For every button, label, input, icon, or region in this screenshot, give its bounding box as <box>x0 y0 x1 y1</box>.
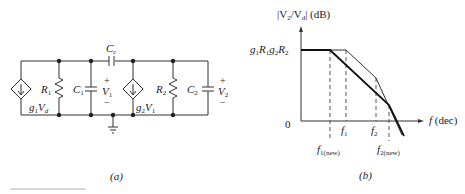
bode-plot <box>299 26 424 141</box>
C2-label: C2 <box>187 83 198 97</box>
x-axis-arrow-icon <box>418 119 424 123</box>
V1-minus: − <box>104 97 110 108</box>
dependent-current-source-icon <box>123 79 143 99</box>
x-axis-label: f (dec) <box>429 114 458 127</box>
dependent-current-source-icon <box>11 79 31 99</box>
R1-label: R1 <box>40 83 52 97</box>
R2-label: R2 <box>155 83 167 97</box>
original-response-line <box>301 50 402 135</box>
f2-tick-label: f2 <box>371 124 378 138</box>
V2-minus: − <box>220 97 226 108</box>
f1new-tick-label: f1(new) <box>317 143 341 157</box>
source2-label: g2V1 <box>136 101 156 115</box>
source1-label: g1Vd <box>29 101 49 115</box>
caption-a: (a) <box>110 170 123 183</box>
origin-label: 0 <box>285 118 291 130</box>
caption-b: (b) <box>359 169 372 182</box>
C1-label: C1 <box>73 83 84 97</box>
figure: g1Vd R1 C1 + V1 − Cc g2V1 R2 C2 + V2 − (… <box>0 0 465 194</box>
gain-label: g1R1g2R2 <box>250 43 289 57</box>
figure-tag-fragment <box>10 188 86 190</box>
y-axis-label: |V2/Vd| (dB) <box>277 8 331 22</box>
Cc-label: Cc <box>106 42 117 56</box>
f1-tick-label: f1 <box>341 124 348 138</box>
new-response-line <box>301 50 404 136</box>
y-axis-arrow-icon <box>299 26 303 32</box>
f2new-tick-label: f2(new) <box>377 143 401 157</box>
